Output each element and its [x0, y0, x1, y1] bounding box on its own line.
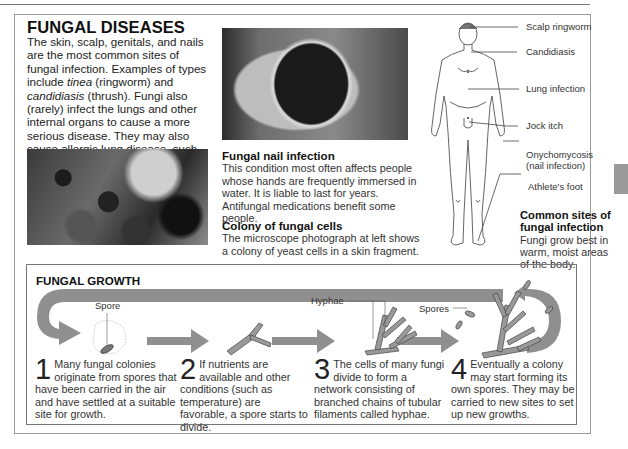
colony-caption-body: The microscope photograph at left shows …: [222, 232, 422, 257]
step-number: 4: [451, 358, 467, 381]
label-athletes-foot: Athlete's foot: [528, 181, 583, 192]
top-rule: [0, 4, 590, 5]
label-jock-itch: Jock itch: [526, 120, 563, 131]
nail-caption: Fungal nail infection This condition mos…: [222, 149, 422, 225]
growth-step-1: 1Many fungal colonies originate from spo…: [35, 358, 183, 421]
colony-caption: Colony of fungal cells The microscope ph…: [222, 219, 422, 257]
fungal-growth-panel: FUNGAL GROWTH: [26, 264, 577, 425]
step-number: 3: [314, 358, 330, 381]
label-onychomycosis: Onychomycosis (nail infection): [526, 149, 593, 171]
term-tinea: tinea: [67, 75, 92, 88]
growth-diagram: [27, 265, 578, 360]
intro-part-2: (ringworm) and: [92, 75, 173, 88]
step-text: Many fungal colonies originate from spor…: [35, 358, 177, 420]
microscope-photo: [27, 149, 208, 245]
nail-photo: [222, 28, 408, 140]
growth-step-2: 2If nutrients are available and other co…: [180, 358, 310, 433]
dividing-spore-icon: [227, 323, 271, 355]
annotation-hyphae: Hyphae: [311, 295, 344, 306]
step-arrow-2: [272, 329, 335, 353]
step-text: Eventually a colony may start forming it…: [451, 358, 574, 420]
step-number: 1: [35, 358, 51, 381]
nail-caption-title: Fungal nail infection: [222, 149, 422, 162]
label-onychomycosis-main: Onychomycosis: [526, 149, 593, 160]
colony-caption-title: Colony of fungal cells: [222, 219, 422, 232]
annotation-spore: Spore: [95, 300, 120, 311]
growth-step-3: 3The cells of many fungi divide to form …: [314, 358, 446, 421]
label-onychomycosis-sub: (nail infection): [526, 160, 593, 171]
nail-caption-body: This condition most often affects people…: [222, 162, 422, 225]
spore-icon: [93, 313, 126, 355]
sites-caption: Common sites of fungal infection Fungi g…: [520, 209, 612, 271]
term-candidiasis: candidiasis: [27, 89, 84, 102]
growth-step-4: 4Eventually a colony may start forming i…: [451, 358, 575, 421]
step-text: The cells of many fungi divide to form a…: [314, 358, 444, 420]
step-text: If nutrients are available and other con…: [180, 358, 308, 433]
step-arrow-1: [147, 329, 209, 353]
sites-caption-title: Common sites of fungal infection: [520, 209, 612, 234]
label-scalp-ringworm: Scalp ringworm: [526, 21, 591, 32]
label-candidiasis: Candidiasis: [526, 46, 575, 57]
step-number: 2: [180, 358, 196, 381]
label-lung-infection: Lung infection: [526, 83, 585, 94]
annotation-spores: Spores: [419, 303, 449, 314]
